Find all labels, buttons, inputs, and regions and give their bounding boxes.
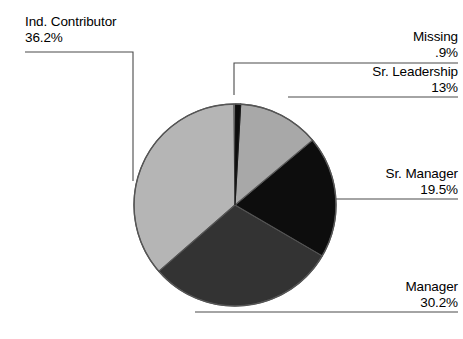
slice-label-ind-contributor: Ind. Contributor 36.2%: [25, 14, 116, 46]
slice-label-sr-manager-name: Sr. Manager: [386, 166, 458, 181]
slice-label-ind-contributor-value: 36.2%: [25, 30, 116, 46]
slice-label-ind-contributor-name: Ind. Contributor: [25, 14, 116, 29]
pie-slices: [134, 104, 336, 306]
slice-label-sr-leadership-value: 13%: [333, 80, 458, 96]
slice-label-sr-leadership: Sr. Leadership 13%: [333, 64, 458, 96]
slice-label-sr-manager-value: 19.5%: [333, 182, 458, 198]
slice-label-missing: Missing .9%: [333, 29, 458, 61]
leader-line-ind-contributor: [25, 52, 133, 181]
slice-label-missing-name: Missing: [413, 29, 458, 44]
pie-chart-figure: Ind. Contributor 36.2% Missing .9% Sr. L…: [0, 0, 463, 339]
slice-label-missing-value: .9%: [333, 45, 458, 61]
slice-label-manager-name: Manager: [405, 279, 458, 294]
slice-label-sr-leadership-name: Sr. Leadership: [372, 64, 458, 79]
slice-label-manager: Manager 30.2%: [333, 279, 458, 311]
slice-label-sr-manager: Sr. Manager 19.5%: [333, 166, 458, 198]
slice-label-manager-value: 30.2%: [333, 295, 458, 311]
